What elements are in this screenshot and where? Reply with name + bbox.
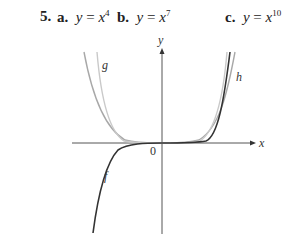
curve-label-f: f <box>104 169 109 183</box>
x-axis-label: x <box>258 136 265 150</box>
curve-label-h: h <box>236 70 242 84</box>
y-axis-label: y <box>157 33 164 47</box>
graph: x y 0 g h f <box>0 0 294 244</box>
x-axis-arrow-icon <box>250 141 256 146</box>
curve-label-g: g <box>102 58 108 72</box>
origin-label: 0 <box>150 144 156 158</box>
y-axis-arrow-icon <box>160 48 165 54</box>
